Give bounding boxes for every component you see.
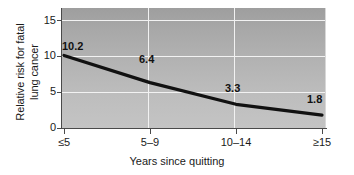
x-tick-mark-3 (322, 129, 323, 134)
y-axis-spine (61, 8, 62, 129)
plot-area (62, 8, 326, 128)
data-label-1: 6.4 (139, 54, 154, 65)
y-tick-label-5: 5 (30, 86, 56, 97)
data-label-2: 3.3 (225, 83, 240, 94)
y-tick-label-10: 10 (30, 50, 56, 61)
x-axis-title: Years since quitting (0, 155, 354, 167)
y-tick-label-0: 0 (30, 122, 56, 133)
x-axis-spine (61, 128, 327, 129)
x-tick-label-3: ≥15 (313, 137, 331, 148)
x-tick-label-0: ≤5 (58, 137, 70, 148)
data-label-3: 1.8 (307, 94, 322, 105)
y-axis-title-line-1: Relative risk for fatal (13, 23, 27, 120)
y-tick-label-15: 15 (30, 15, 56, 26)
y-axis-tick-labels: 15 10 5 0 (30, 0, 56, 175)
x-tick-label-2: 10–14 (221, 137, 252, 148)
x-tick-label-1: 5–9 (141, 137, 159, 148)
x-tick-mark-2 (236, 129, 237, 134)
data-line (62, 8, 326, 128)
x-tick-mark-1 (150, 129, 151, 134)
x-tick-mark-0 (64, 129, 65, 134)
data-label-0: 10.2 (62, 41, 83, 52)
chart-figure: Relative risk for fatal lung cancer 15 1… (0, 0, 354, 175)
